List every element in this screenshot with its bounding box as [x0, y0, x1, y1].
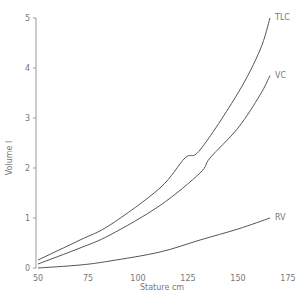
series-line-tlc [38, 18, 270, 260]
x-tick-label: 50 [33, 274, 43, 283]
labels: TLCVCRV [274, 13, 290, 222]
x-tick-label: 75 [83, 274, 93, 283]
x-tick-label: 100 [130, 274, 145, 283]
y-axis-label: Volume l [5, 141, 14, 176]
y-tick-label: 0 [25, 264, 30, 273]
x-tick-label: 125 [180, 274, 195, 283]
y-tick-label: 5 [25, 14, 30, 23]
chart: 0123455075100125150175 TLCVCRV Stature c… [0, 0, 302, 298]
x-tick-label: 175 [280, 274, 295, 283]
y-tick-label: 3 [25, 114, 30, 123]
series-line-vc [38, 76, 270, 265]
y-tick-label: 4 [25, 64, 30, 73]
series-label-vc: VC [275, 71, 286, 80]
x-tick-label: 150 [230, 274, 245, 283]
x-axis-label: Stature cm [140, 283, 184, 292]
series-label-rv: RV [275, 213, 286, 222]
series-label-tlc: TLC [274, 13, 290, 22]
axes: 0123455075100125150175 [25, 14, 296, 283]
y-tick-label: 1 [25, 214, 30, 223]
y-tick-label: 2 [25, 164, 30, 173]
curves [38, 18, 270, 268]
